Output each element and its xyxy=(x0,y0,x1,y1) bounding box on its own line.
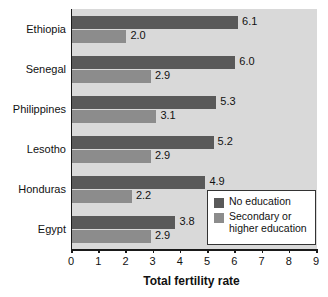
bar[interactable] xyxy=(72,176,205,189)
category-label-senegal: Senegal xyxy=(26,63,66,75)
bar-value-label: 2.9 xyxy=(155,229,170,242)
x-tick xyxy=(125,249,127,253)
bar[interactable] xyxy=(72,56,235,69)
legend: No education Secondary orhigher educatio… xyxy=(207,190,316,245)
bar-value-label: 3.1 xyxy=(160,109,175,122)
bar-group: 5.33.1 xyxy=(72,96,317,123)
bar-value-label: 6.0 xyxy=(239,55,254,68)
bar-value-label: 3.8 xyxy=(179,215,194,228)
category-label-lesotho: Lesotho xyxy=(27,143,66,155)
x-tick-label: 7 xyxy=(252,255,272,268)
category-label-ethiopia: Ethiopia xyxy=(26,23,66,35)
category-label-honduras: Honduras xyxy=(18,183,66,195)
x-tick xyxy=(153,249,155,253)
x-tick-label: 2 xyxy=(115,255,135,268)
x-axis-title: Total fertility rate xyxy=(0,274,328,288)
bar-value-label: 4.9 xyxy=(209,175,224,188)
x-tick-label: 9 xyxy=(306,255,326,268)
x-tick-label: 0 xyxy=(61,255,81,268)
x-tick xyxy=(234,249,236,253)
bar-value-label: 5.3 xyxy=(220,95,235,108)
x-tick-label: 3 xyxy=(143,255,163,268)
x-tick xyxy=(289,249,291,253)
bar-group: 5.22.9 xyxy=(72,136,317,163)
bar[interactable] xyxy=(72,190,132,203)
bar[interactable] xyxy=(72,136,214,149)
bar[interactable] xyxy=(72,30,126,43)
x-tick xyxy=(316,249,318,253)
x-tick xyxy=(262,249,264,253)
x-tick-label: 4 xyxy=(170,255,190,268)
x-tick xyxy=(207,249,209,253)
x-tick-label: 8 xyxy=(279,255,299,268)
bar-group: 6.12.0 xyxy=(72,16,317,43)
x-tick-label: 6 xyxy=(224,255,244,268)
legend-item-secondary-education[interactable]: Secondary orhigher education xyxy=(214,211,311,234)
x-tick-label: 1 xyxy=(88,255,108,268)
bar-value-label: 2.2 xyxy=(136,189,151,202)
x-tick xyxy=(180,249,182,253)
x-tick xyxy=(71,249,73,253)
bar-value-label: 5.2 xyxy=(218,135,233,148)
legend-label-no-education: No education xyxy=(229,196,291,208)
bar[interactable] xyxy=(72,230,151,243)
bar[interactable] xyxy=(72,96,216,109)
x-tick-label: 5 xyxy=(197,255,217,268)
bar-group: 6.02.9 xyxy=(72,56,317,83)
bar-value-label: 2.9 xyxy=(155,149,170,162)
bar-value-label: 2.0 xyxy=(130,29,145,42)
fertility-rate-bar-chart: 6.12.06.02.95.33.15.22.94.92.23.82.9 Eth… xyxy=(0,0,328,297)
bar[interactable] xyxy=(72,70,151,83)
bar[interactable] xyxy=(72,16,238,29)
bar[interactable] xyxy=(72,150,151,163)
legend-item-no-education[interactable]: No education xyxy=(214,196,311,208)
category-label-philippines: Philippines xyxy=(13,103,66,115)
bar[interactable] xyxy=(72,110,156,123)
legend-swatch-secondary-education-icon xyxy=(214,213,224,223)
x-tick xyxy=(98,249,100,253)
x-axis-line xyxy=(71,249,317,251)
legend-swatch-no-education-icon xyxy=(214,198,224,208)
category-label-egypt: Egypt xyxy=(38,223,66,235)
bar[interactable] xyxy=(72,216,175,229)
bar-value-label: 6.1 xyxy=(242,15,257,28)
bar-value-label: 2.9 xyxy=(155,69,170,82)
legend-label-secondary-education: Secondary orhigher education xyxy=(229,211,307,234)
